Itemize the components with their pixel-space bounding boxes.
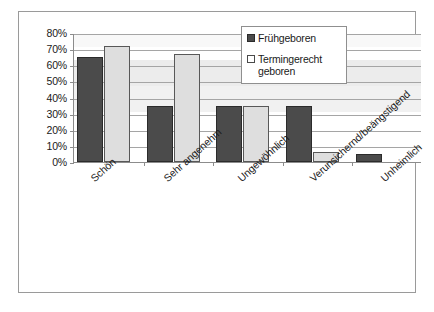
- y-tick-mark: [70, 163, 74, 164]
- legend-item-fruehgeboren: Frühgeboren: [247, 32, 341, 44]
- legend-swatch-icon: [247, 34, 255, 42]
- bar: [147, 106, 173, 162]
- legend-label: Termingerecht geboren: [258, 53, 341, 77]
- y-tick-label: 50%: [27, 75, 67, 87]
- y-tick-label: 0%: [27, 156, 67, 168]
- x-tick-mark: [213, 162, 214, 166]
- bar-group: [74, 34, 144, 162]
- bar: [77, 57, 103, 162]
- y-tick-label: 30%: [27, 108, 67, 120]
- bar: [356, 154, 382, 162]
- chart-frame: 80%70%60%50%40%30%20%10%0% SchönSehr ang…: [18, 11, 416, 293]
- bar: [286, 106, 312, 162]
- y-tick-label: 60%: [27, 59, 67, 71]
- y-tick-label: 80%: [27, 27, 67, 39]
- x-tick-mark: [352, 162, 353, 166]
- legend-swatch-icon: [247, 55, 255, 63]
- y-tick-label: 70%: [27, 43, 67, 55]
- x-tick-mark: [283, 162, 284, 166]
- legend-label: Frühgeboren: [258, 32, 316, 44]
- bar: [104, 46, 130, 162]
- legend-item-termingerecht-geboren: Termingerecht geboren: [247, 53, 341, 77]
- y-tick-label: 20%: [27, 124, 67, 136]
- y-tick-label: 10%: [27, 140, 67, 152]
- y-tick-label: 40%: [27, 92, 67, 104]
- chart-legend: Frühgeboren Termingerecht geboren: [241, 26, 347, 84]
- x-tick-mark: [144, 162, 145, 166]
- bar-group: [352, 34, 422, 162]
